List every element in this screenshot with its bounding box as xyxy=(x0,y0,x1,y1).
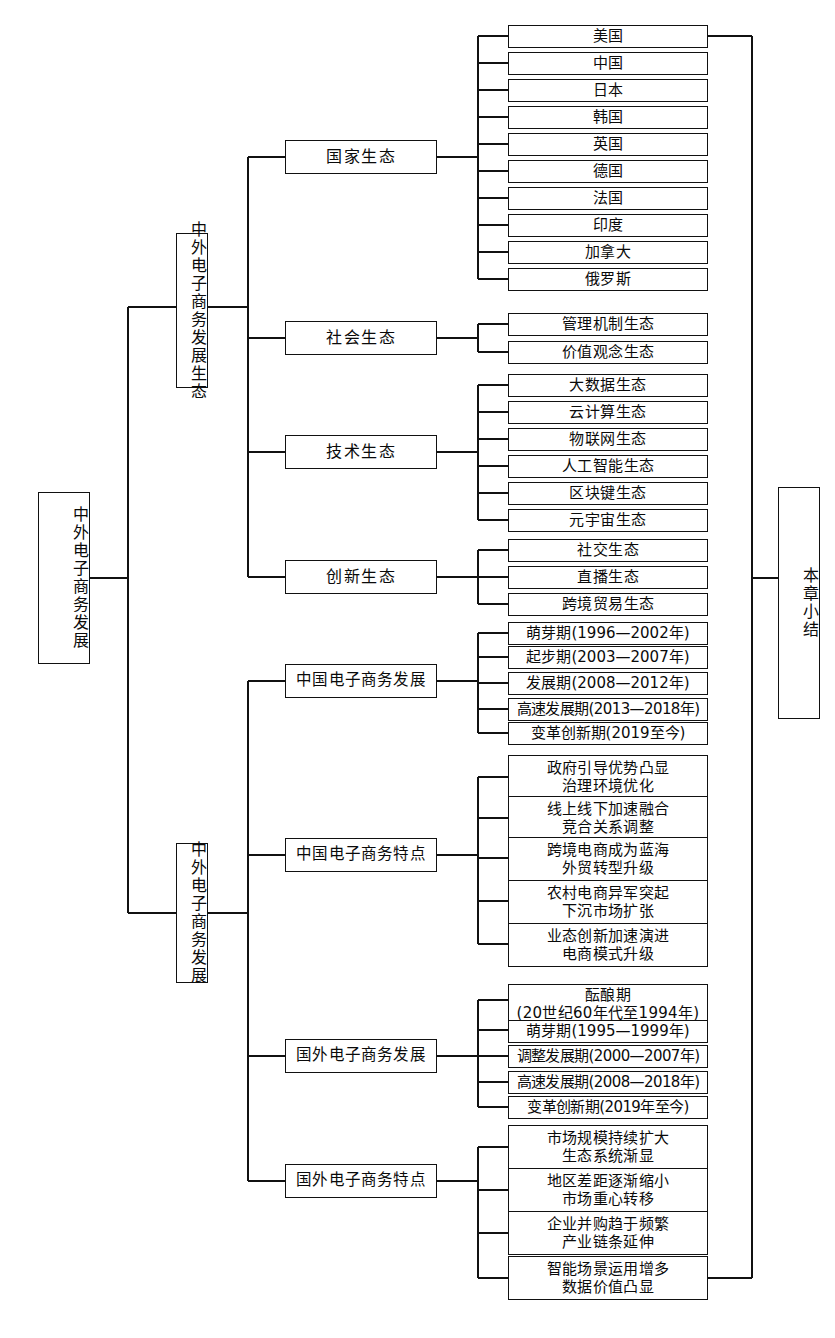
leaf-node-foreign-feature[interactable]: 企业并购趋于频繁 产业链条延伸 xyxy=(508,1211,708,1255)
leaf-node-technology-label: 大数据生态 xyxy=(509,377,707,394)
leaf-node-country-label: 加拿大 xyxy=(509,244,707,261)
category-node-technology-ecology[interactable]: 技术生态 xyxy=(285,435,437,469)
leaf-node-social-label: 管理机制生态 xyxy=(509,316,707,333)
category-node-foreign-development[interactable]: 国外电子商务发展 xyxy=(285,1039,437,1073)
leaf-node-technology-label: 元宇宙生态 xyxy=(509,512,707,529)
leaf-node-china-stage[interactable]: 萌芽期(1996—2002年) xyxy=(508,622,708,645)
category-node-technology-ecology-label: 技术生态 xyxy=(286,443,436,461)
branch-node-ecosystem[interactable]: 中外电子商务发展生态 xyxy=(176,233,208,388)
leaf-node-china-feature[interactable]: 政府引导优势凸显 治理环境优化 xyxy=(508,755,708,799)
category-node-social-ecology-label: 社会生态 xyxy=(286,329,436,347)
leaf-node-china-stage[interactable]: 起步期(2003—2007年) xyxy=(508,646,708,669)
leaf-node-country[interactable]: 德国 xyxy=(508,160,708,183)
leaf-node-country-label: 法国 xyxy=(509,190,707,207)
leaf-node-china-stage[interactable]: 发展期(2008—2012年) xyxy=(508,672,708,695)
leaf-node-foreign-feature-line1: 企业并购趋于频繁 xyxy=(547,1215,669,1233)
leaf-node-china-stage[interactable]: 高速发展期(2013—2018年) xyxy=(508,698,708,721)
leaf-node-social[interactable]: 管理机制生态 xyxy=(508,313,708,336)
leaf-node-innovation-label: 直播生态 xyxy=(509,569,707,586)
leaf-node-innovation[interactable]: 跨境贸易生态 xyxy=(508,593,708,616)
leaf-node-china-feature-line1: 跨境电商成为蓝海 xyxy=(547,841,669,859)
leaf-node-country[interactable]: 美国 xyxy=(508,25,708,48)
summary-node-label: 本章小结 xyxy=(779,567,819,639)
leaf-node-country[interactable]: 法国 xyxy=(508,187,708,210)
leaf-node-innovation-label: 社交生态 xyxy=(509,542,707,559)
leaf-node-technology-label: 云计算生态 xyxy=(509,404,707,421)
leaf-node-foreign-feature-line2: 数据价值凸显 xyxy=(562,1278,654,1296)
category-node-innovation-ecology-label: 创新生态 xyxy=(286,568,436,586)
leaf-node-china-feature[interactable]: 业态创新加速演进 电商模式升级 xyxy=(508,923,708,967)
leaf-node-foreign-stage-label: 萌芽期(1995—1999年) xyxy=(509,1023,707,1040)
leaf-node-foreign-stage[interactable]: 高速发展期(2008—2018年) xyxy=(508,1071,708,1094)
leaf-node-foreign-feature[interactable]: 地区差距逐渐缩小 市场重心转移 xyxy=(508,1168,708,1212)
category-node-country-ecology[interactable]: 国家生态 xyxy=(285,140,437,174)
leaf-node-innovation[interactable]: 社交生态 xyxy=(508,539,708,562)
leaf-node-technology-label: 区块键生态 xyxy=(509,485,707,502)
leaf-node-technology-label: 人工智能生态 xyxy=(509,458,707,475)
category-node-china-features-label: 中国电子商务特点 xyxy=(286,846,436,863)
category-node-foreign-features[interactable]: 国外电子商务特点 xyxy=(285,1164,437,1198)
category-node-china-development-label: 中国电子商务发展 xyxy=(286,672,436,689)
leaf-node-social-label: 价值观念生态 xyxy=(509,344,707,361)
root-node-label: 中外电子商务发展 xyxy=(39,506,89,650)
leaf-node-social[interactable]: 价值观念生态 xyxy=(508,341,708,364)
leaf-node-china-feature-line1: 业态创新加速演进 xyxy=(547,927,669,945)
leaf-node-china-stage-label: 变革创新期(2019至今) xyxy=(509,725,707,742)
branch-node-development[interactable]: 中外电子商务发展 xyxy=(176,843,208,983)
category-node-foreign-features-label: 国外电子商务特点 xyxy=(286,1172,436,1189)
leaf-node-foreign-feature-line2: 产业链条延伸 xyxy=(562,1233,654,1251)
root-node[interactable]: 中外电子商务发展 xyxy=(38,492,90,664)
leaf-node-country[interactable]: 加拿大 xyxy=(508,241,708,264)
leaf-node-china-feature[interactable]: 跨境电商成为蓝海 外贸转型升级 xyxy=(508,837,708,881)
leaf-node-country[interactable]: 韩国 xyxy=(508,106,708,129)
leaf-node-technology[interactable]: 云计算生态 xyxy=(508,401,708,424)
leaf-node-country[interactable]: 印度 xyxy=(508,214,708,237)
leaf-node-foreign-stage-line1: 酝酿期 xyxy=(585,986,631,1004)
branch-node-development-label: 中外电子商务发展 xyxy=(177,841,207,985)
leaf-node-foreign-stage[interactable]: 变革创新期(2019年至今) xyxy=(508,1096,708,1119)
leaf-node-country-label: 美国 xyxy=(509,28,707,45)
leaf-node-foreign-stage[interactable]: 萌芽期(1995—1999年) xyxy=(508,1020,708,1043)
leaf-node-foreign-stage-label: 高速发展期(2008—2018年) xyxy=(509,1074,707,1091)
leaf-node-china-stage-label: 发展期(2008—2012年) xyxy=(509,675,707,692)
leaf-node-china-feature-line2: 治理环境优化 xyxy=(562,777,654,795)
leaf-node-china-feature[interactable]: 农村电商异军突起 下沉市场扩张 xyxy=(508,880,708,924)
leaf-node-country[interactable]: 中国 xyxy=(508,52,708,75)
leaf-node-technology[interactable]: 物联网生态 xyxy=(508,428,708,451)
leaf-node-foreign-stage[interactable]: 调整发展期(2000—2007年) xyxy=(508,1045,708,1068)
leaf-node-china-stage-label: 萌芽期(1996—2002年) xyxy=(509,625,707,642)
category-node-innovation-ecology[interactable]: 创新生态 xyxy=(285,560,437,594)
leaf-node-foreign-stage-label: 调整发展期(2000—2007年) xyxy=(509,1048,707,1065)
diagram-canvas: 中外电子商务发展 本章小结 中外电子商务发展生态 中外电子商务发展 国家生态 社… xyxy=(0,0,835,1338)
leaf-node-china-feature-line2: 电商模式升级 xyxy=(562,945,654,963)
leaf-node-foreign-feature[interactable]: 市场规模持续扩大 生态系统渐显 xyxy=(508,1125,708,1169)
leaf-node-china-feature-line2: 下沉市场扩张 xyxy=(562,902,654,920)
leaf-node-technology[interactable]: 元宇宙生态 xyxy=(508,509,708,532)
leaf-node-china-feature-line1: 线上线下加速融合 xyxy=(547,800,669,818)
leaf-node-foreign-feature-line2: 市场重心转移 xyxy=(562,1190,654,1208)
category-node-social-ecology[interactable]: 社会生态 xyxy=(285,321,437,355)
leaf-node-foreign-feature-line2: 生态系统渐显 xyxy=(562,1147,654,1165)
leaf-node-china-stage[interactable]: 变革创新期(2019至今) xyxy=(508,722,708,745)
leaf-node-china-feature[interactable]: 线上线下加速融合 竞合关系调整 xyxy=(508,796,708,840)
leaf-node-technology[interactable]: 区块键生态 xyxy=(508,482,708,505)
leaf-node-technology[interactable]: 大数据生态 xyxy=(508,374,708,397)
leaf-node-country-label: 英国 xyxy=(509,136,707,153)
leaf-node-foreign-feature[interactable]: 智能场景运用增多 数据价值凸显 xyxy=(508,1256,708,1300)
leaf-node-country-label: 俄罗斯 xyxy=(509,271,707,288)
category-node-china-development[interactable]: 中国电子商务发展 xyxy=(285,664,437,698)
leaf-node-foreign-stage[interactable]: 酝酿期 (20世纪60年代至1994年) xyxy=(508,984,708,1024)
leaf-node-country[interactable]: 俄罗斯 xyxy=(508,268,708,291)
leaf-node-china-feature-line2: 外贸转型升级 xyxy=(562,859,654,877)
leaf-node-country[interactable]: 日本 xyxy=(508,79,708,102)
leaf-node-foreign-feature-line1: 市场规模持续扩大 xyxy=(547,1129,669,1147)
summary-node[interactable]: 本章小结 xyxy=(778,487,820,719)
leaf-node-country[interactable]: 英国 xyxy=(508,133,708,156)
leaf-node-technology[interactable]: 人工智能生态 xyxy=(508,455,708,478)
category-node-china-features[interactable]: 中国电子商务特点 xyxy=(285,838,437,872)
leaf-node-innovation[interactable]: 直播生态 xyxy=(508,566,708,589)
leaf-node-foreign-stage-label: 变革创新期(2019年至今) xyxy=(509,1099,707,1116)
leaf-node-china-stage-label: 起步期(2003—2007年) xyxy=(509,649,707,666)
leaf-node-country-label: 印度 xyxy=(509,217,707,234)
leaf-node-china-feature-line2: 竞合关系调整 xyxy=(562,818,654,836)
